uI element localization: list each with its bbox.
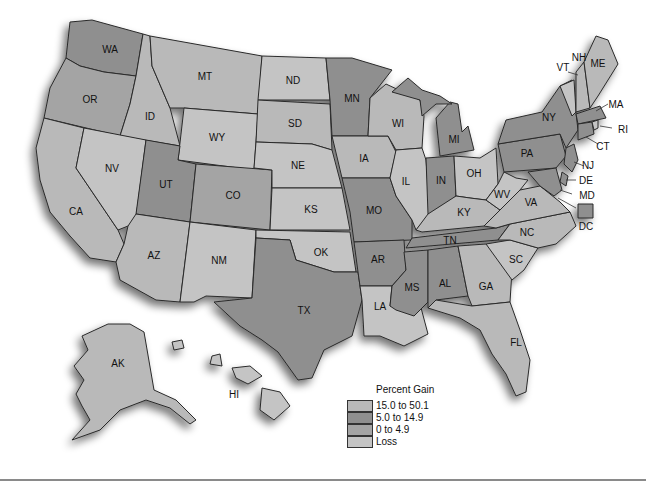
svg-text:PA: PA <box>521 148 534 159</box>
state-NJ <box>564 144 578 172</box>
svg-text:MT: MT <box>198 71 212 82</box>
svg-text:MA: MA <box>609 99 624 110</box>
svg-text:MS: MS <box>405 282 420 293</box>
svg-text:CA: CA <box>69 206 83 217</box>
svg-text:MD: MD <box>579 190 595 201</box>
svg-text:NV: NV <box>105 163 119 174</box>
svg-text:MN: MN <box>344 93 360 104</box>
svg-text:UT: UT <box>159 179 172 190</box>
svg-text:IA: IA <box>359 153 369 164</box>
legend-label-1: 15.0 to 50.1 <box>376 400 429 412</box>
svg-text:RI: RI <box>618 124 628 135</box>
svg-text:ND: ND <box>286 75 300 86</box>
svg-text:IL: IL <box>402 176 411 187</box>
state-ME <box>584 36 618 108</box>
legend-swatch-3 <box>347 424 373 436</box>
svg-text:NH: NH <box>572 52 586 63</box>
svg-text:NE: NE <box>291 160 305 171</box>
svg-text:WI: WI <box>392 118 404 129</box>
svg-text:VT: VT <box>557 62 570 73</box>
svg-text:OR: OR <box>83 94 98 105</box>
svg-text:HI: HI <box>229 389 239 400</box>
svg-text:MI: MI <box>448 134 459 145</box>
svg-text:MO: MO <box>366 205 382 216</box>
legend-label-4: Loss <box>376 436 397 448</box>
legend-swatch-2 <box>347 412 373 424</box>
svg-text:OK: OK <box>314 247 329 258</box>
svg-text:SC: SC <box>509 254 523 265</box>
svg-text:AK: AK <box>111 358 125 369</box>
svg-text:KS: KS <box>304 204 318 215</box>
svg-text:DE: DE <box>579 175 593 186</box>
svg-text:NM: NM <box>211 255 227 266</box>
svg-text:DC: DC <box>579 221 593 232</box>
svg-text:OH: OH <box>467 168 482 179</box>
svg-text:NJ: NJ <box>582 160 594 171</box>
svg-text:VA: VA <box>525 197 538 208</box>
svg-text:SD: SD <box>288 118 302 129</box>
us-map: WA OR CA ID NV MT WY UT CO AZ NM ND SD N… <box>0 0 646 482</box>
svg-text:WA: WA <box>102 44 118 55</box>
svg-text:CO: CO <box>226 190 241 201</box>
svg-text:AZ: AZ <box>148 250 161 261</box>
svg-text:WV: WV <box>494 189 510 200</box>
svg-text:TX: TX <box>298 305 311 316</box>
svg-text:CT: CT <box>596 141 609 152</box>
svg-text:FL: FL <box>510 337 522 348</box>
state-MI <box>436 102 474 156</box>
legend-label-2: 5.0 to 14.9 <box>376 412 423 424</box>
legend-title: Percent Gain <box>376 384 434 395</box>
svg-text:AR: AR <box>371 254 385 265</box>
state-DE <box>560 172 568 186</box>
state-FL <box>428 300 530 396</box>
svg-text:AL: AL <box>439 278 452 289</box>
svg-text:ID: ID <box>145 111 155 122</box>
svg-text:GA: GA <box>479 281 494 292</box>
svg-text:IN: IN <box>436 175 446 186</box>
island-small <box>172 340 184 350</box>
svg-text:NY: NY <box>542 112 556 123</box>
svg-text:ME: ME <box>591 58 606 69</box>
legend-swatch-1 <box>347 400 373 412</box>
state-DC <box>578 204 593 218</box>
svg-text:NC: NC <box>520 227 534 238</box>
legend-label-3: 0 to 4.9 <box>376 424 409 436</box>
legend-swatch-4 <box>347 436 373 448</box>
svg-text:KY: KY <box>457 207 471 218</box>
svg-text:LA: LA <box>374 301 387 312</box>
state-HI <box>210 354 290 420</box>
bottom-rule <box>0 479 646 481</box>
svg-text:TN: TN <box>443 235 456 246</box>
svg-text:WY: WY <box>209 132 225 143</box>
